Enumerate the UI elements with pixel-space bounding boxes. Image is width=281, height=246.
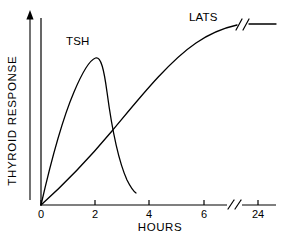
x-tick-label-6: 6 [196,209,212,220]
series-curve-lats [41,25,237,205]
series-curve-tsh [41,58,136,205]
x-tick-label-24: 24 [248,209,268,220]
x-axis-title: HOURS [120,222,200,234]
y-axis-title-text: THYROID RESPONSE [7,56,19,186]
x-tick-label-4: 4 [141,209,157,220]
lats-curve-break-icon [236,19,249,30]
chart-figure: THYROID RESPONSE HOURS 0 2 4 6 24 TSH LA… [0,0,281,246]
series-label-lats: LATS [189,12,218,24]
series-label-tsh: TSH [66,36,90,48]
x-tick-label-2: 2 [87,209,103,220]
x-tick-label-0: 0 [33,209,49,220]
x-axis-break-icon [228,200,241,209]
x-axis-ticks [41,200,258,205]
y-axis-arrow-icon [26,10,33,200]
y-axis-title: THYROID RESPONSE [3,58,23,184]
